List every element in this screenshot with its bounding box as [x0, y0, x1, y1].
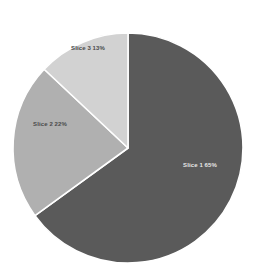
pie-slice-label-3-text: Slice 3 13% [71, 45, 105, 51]
pie-plot-area: Slice 1 65% Slice 2 22% Slice 3 13% [0, 0, 253, 266]
pie-slice-label-2: Slice 2 22% [33, 120, 67, 128]
pie-slice-label-3: Slice 3 13% [71, 44, 105, 52]
pie-slice-label-1: Slice 1 65% [183, 161, 217, 169]
pie-chart-figure: Slice 1 65% Slice 2 22% Slice 3 13% [0, 0, 253, 266]
pie-slice-label-1-text: Slice 1 65% [183, 162, 217, 168]
pie-slice-group [13, 33, 243, 263]
pie-slice-label-2-text: Slice 2 22% [33, 121, 67, 127]
pie-svg [0, 0, 253, 266]
